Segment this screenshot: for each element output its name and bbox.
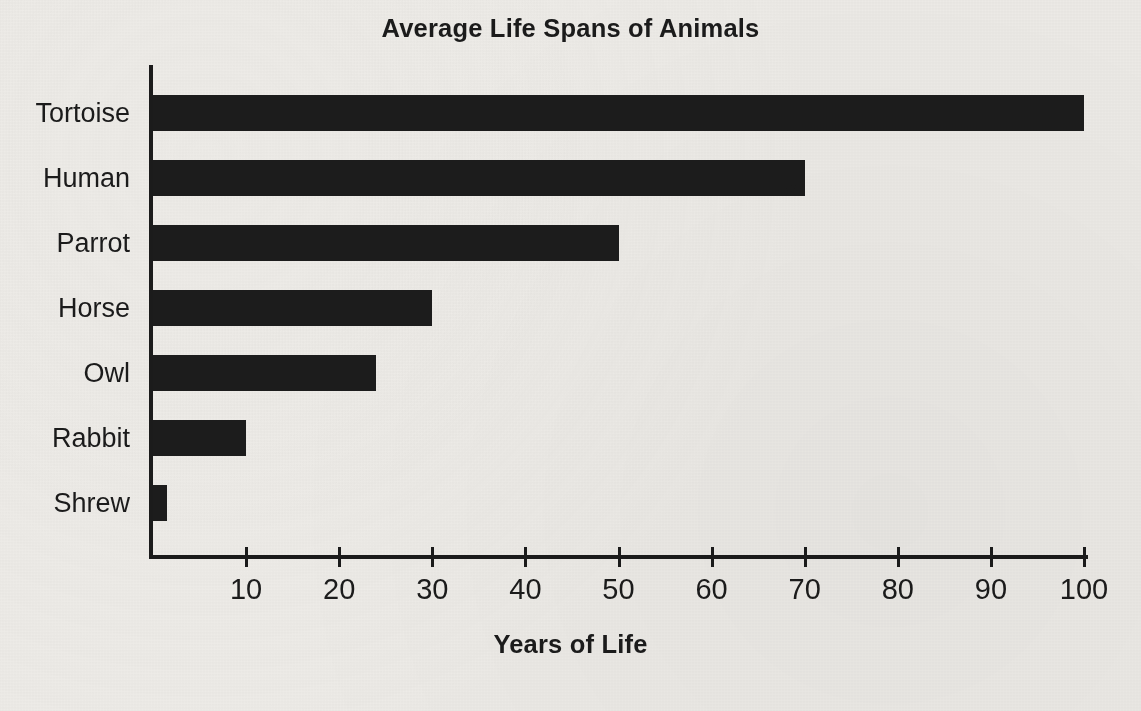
x-tick-label-20: 20: [294, 573, 384, 606]
bar-rect: [153, 225, 619, 261]
x-tick-label-40: 40: [480, 573, 570, 606]
x-axis-title: Years of Life: [0, 630, 1141, 659]
x-tick-mark-100: [1083, 547, 1086, 567]
category-label-human: Human: [0, 160, 130, 196]
x-tick-mark-90: [990, 547, 993, 567]
category-label-tortoise: Tortoise: [0, 95, 130, 131]
plot-area: 102030405060708090100: [153, 65, 1084, 555]
bar-rect: [153, 160, 805, 196]
x-tick-mark-50: [618, 547, 621, 567]
x-tick-mark-80: [897, 547, 900, 567]
x-tick-label-30: 30: [387, 573, 477, 606]
x-tick-mark-70: [804, 547, 807, 567]
bar-rect: [153, 95, 1084, 131]
x-tick-mark-60: [711, 547, 714, 567]
x-tick-mark-40: [524, 547, 527, 567]
bar-chart-figure: Average Life Spans of Animals 1020304050…: [0, 0, 1141, 711]
x-tick-mark-30: [431, 547, 434, 567]
x-tick-label-50: 50: [574, 573, 664, 606]
category-label-owl: Owl: [0, 355, 130, 391]
x-tick-label-90: 90: [946, 573, 1036, 606]
x-tick-label-10: 10: [201, 573, 291, 606]
category-label-horse: Horse: [0, 290, 130, 326]
bar-rect: [153, 290, 432, 326]
x-tick-label-80: 80: [853, 573, 943, 606]
chart-title: Average Life Spans of Animals: [0, 14, 1141, 43]
x-tick-label-60: 60: [667, 573, 757, 606]
bar-rect: [153, 355, 376, 391]
bar-rect: [153, 420, 246, 456]
category-label-shrew: Shrew: [0, 485, 130, 521]
category-label-rabbit: Rabbit: [0, 420, 130, 456]
x-tick-mark-10: [245, 547, 248, 567]
x-tick-label-100: 100: [1039, 573, 1129, 606]
x-tick-mark-20: [338, 547, 341, 567]
bar-rect: [153, 485, 167, 521]
x-tick-label-70: 70: [760, 573, 850, 606]
category-label-parrot: Parrot: [0, 225, 130, 261]
